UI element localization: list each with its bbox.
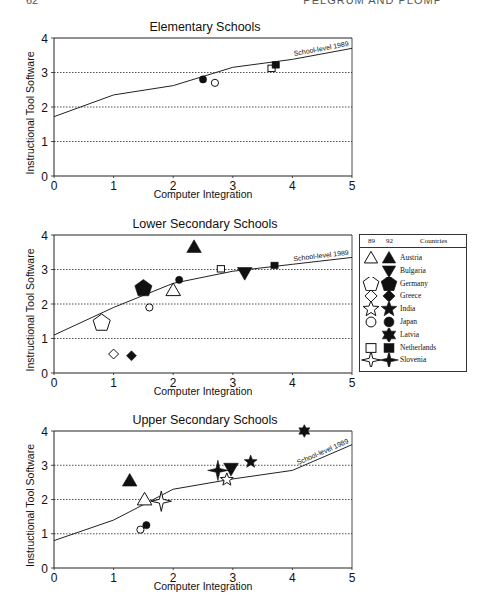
y-axis-label: Instructional Tool Software xyxy=(24,444,36,567)
x-tick-label: 4 xyxy=(289,376,296,390)
y-tick-label: 2 xyxy=(41,298,48,312)
y-tick-label: 1 xyxy=(41,135,48,149)
y-tick-label: 2 xyxy=(41,493,48,507)
point-germany-89-icon xyxy=(93,314,110,330)
legend-item-netherlands: Netherlands xyxy=(360,342,466,354)
x-tick-label: 5 xyxy=(349,179,356,193)
x-tick-label: 0 xyxy=(51,179,58,193)
point-netherlands-92-icon xyxy=(271,262,278,268)
legend-label: Germany xyxy=(400,279,428,288)
point-austria-92-icon xyxy=(122,473,137,486)
legend-col-countries: Countries xyxy=(420,237,447,245)
y-tick-label: 1 xyxy=(41,527,48,541)
legend-col-89: 89 xyxy=(368,237,375,245)
legend-item-austria: Austria xyxy=(360,252,466,264)
y-tick-label: 2 xyxy=(41,101,48,115)
legend-diamond-filled-icon xyxy=(383,290,395,302)
point-japan-92-icon xyxy=(143,522,150,529)
point-slovenia-89-icon xyxy=(151,491,171,511)
point-germany-92-icon xyxy=(135,279,152,295)
legend-item-germany: Germany xyxy=(360,278,466,290)
school-level-1989-label: School-level 1989 xyxy=(293,249,349,262)
y-tick-label: 4 xyxy=(41,229,48,243)
legend-label: Bulgaria xyxy=(400,266,426,275)
legend-triangle-up-open-icon xyxy=(364,251,377,263)
point-latvia-92-icon xyxy=(299,425,310,438)
x-axis-label: Computer Integration xyxy=(154,385,253,397)
x-tick-label: 0 xyxy=(51,376,58,390)
chart-lower-secondary-schools: Lower Secondary Schools01234012345Comput… xyxy=(24,217,356,397)
legend-diamond-open-icon xyxy=(365,290,377,302)
legend-triangle-up-filled-icon xyxy=(382,251,395,263)
legend-square-filled-icon xyxy=(384,343,394,352)
point-greece-92-icon xyxy=(127,351,137,361)
point-greece-89-icon xyxy=(109,349,119,359)
legend-item-slovenia: Slovenia xyxy=(360,354,466,366)
point-japan-92-icon xyxy=(176,276,183,283)
y-tick-label: 0 xyxy=(41,562,48,576)
x-tick-label: 5 xyxy=(349,571,356,585)
chart-elementary-schools: Elementary Schools01234012345Computer In… xyxy=(24,20,356,200)
x-tick-label: 1 xyxy=(110,571,117,585)
y-tick-label: 1 xyxy=(41,332,48,346)
point-bulgaria-92-icon xyxy=(237,268,252,281)
school-level-1989-label: School-level 1989 xyxy=(296,437,350,465)
chart-upper-secondary-schools: Upper Secondary Schools01234012345Comput… xyxy=(24,413,356,592)
y-tick-label: 3 xyxy=(41,66,48,80)
legend: 89 92 Countries AustriaBulgariaGermanyGr… xyxy=(359,234,467,372)
chart-title: Lower Secondary Schools xyxy=(132,217,277,231)
y-tick-label: 0 xyxy=(41,170,48,184)
legend-item-bulgaria: Bulgaria xyxy=(360,265,466,277)
legend-label: Austria xyxy=(400,253,422,262)
legend-label: Netherlands xyxy=(400,343,436,352)
x-axis-label: Computer Integration xyxy=(154,580,253,592)
legend-item-india: India xyxy=(360,303,466,315)
legend-label: Latvia xyxy=(400,330,419,339)
legend-star5-open-icon xyxy=(363,302,379,316)
point-japan-89-icon xyxy=(211,79,218,86)
x-tick-label: 5 xyxy=(349,376,356,390)
legend-item-greece: Greece xyxy=(360,290,466,302)
legend-star4-open-icon xyxy=(362,353,381,367)
legend-circle-filled-icon xyxy=(384,317,394,327)
legend-pentagon-open-icon xyxy=(363,277,379,291)
point-austria-89-icon xyxy=(137,492,152,505)
chart-title: Upper Secondary Schools xyxy=(132,413,277,427)
point-japan-89-icon xyxy=(146,304,153,311)
legend-circle-open-icon xyxy=(366,317,376,327)
legend-star4-filled-icon xyxy=(380,353,399,367)
point-japan-92-icon xyxy=(199,76,206,83)
legend-label: Slovenia xyxy=(400,355,426,364)
y-axis-label: Instructional Tool Software xyxy=(24,51,36,174)
legend-label: India xyxy=(400,304,415,313)
legend-star5-filled-icon xyxy=(381,302,397,316)
legend-pentagon-filled-icon xyxy=(381,277,397,291)
x-tick-label: 4 xyxy=(289,179,296,193)
y-tick-label: 3 xyxy=(41,459,48,473)
x-tick-label: 4 xyxy=(289,571,296,585)
point-austria-92-icon xyxy=(187,240,202,253)
legend-label: Greece xyxy=(400,291,421,300)
y-tick-label: 3 xyxy=(41,263,48,277)
point-netherlands-92-icon xyxy=(272,62,279,68)
x-tick-label: 1 xyxy=(110,376,117,390)
y-axis-label: Instructional Tool Software xyxy=(24,248,36,371)
legend-square-open-icon xyxy=(366,343,376,352)
y-tick-label: 0 xyxy=(41,367,48,381)
chart-title: Elementary Schools xyxy=(149,20,260,34)
legend-header: 89 92 Countries xyxy=(360,235,466,248)
point-netherlands-89-icon xyxy=(217,266,224,272)
y-tick-label: 4 xyxy=(41,32,48,46)
legend-item-latvia: Latvia xyxy=(360,329,466,341)
legend-markers xyxy=(360,353,400,367)
legend-label: Japan xyxy=(400,317,417,326)
legend-item-japan: Japan xyxy=(360,316,466,328)
x-tick-label: 1 xyxy=(110,179,117,193)
x-tick-label: 0 xyxy=(51,571,58,585)
y-tick-label: 4 xyxy=(41,425,48,439)
point-japan-89-icon xyxy=(137,526,144,533)
legend-col-92: 92 xyxy=(386,237,393,245)
x-axis-label: Computer Integration xyxy=(154,188,253,200)
